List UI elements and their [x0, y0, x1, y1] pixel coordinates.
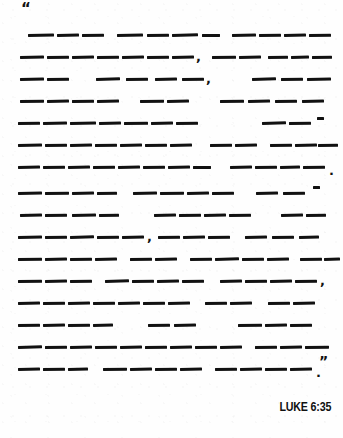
word-blank	[307, 77, 331, 80]
word-blank	[99, 214, 119, 218]
word-blank	[262, 121, 286, 125]
word-blank	[43, 323, 65, 327]
word-blank	[20, 56, 44, 59]
word-blank	[255, 166, 277, 170]
word-blank	[143, 302, 165, 305]
word-blank	[176, 122, 198, 125]
word-blank	[97, 192, 117, 195]
verse-attribution: LUKE 6:35	[279, 399, 331, 414]
word-blank	[205, 302, 227, 305]
word-blank	[99, 122, 121, 126]
word-blank	[302, 99, 324, 103]
word-blank	[284, 33, 306, 37]
hyphen-mark	[317, 117, 324, 120]
word-blank	[45, 192, 69, 196]
verse-line: ,	[0, 50, 343, 62]
verse-line: ,	[0, 72, 343, 84]
word-blank	[208, 236, 230, 239]
word-blank	[97, 236, 119, 239]
word-blank	[148, 324, 170, 328]
word-blank	[103, 368, 127, 371]
word-blank	[45, 236, 67, 239]
word-blank	[18, 301, 40, 304]
word-blank	[270, 144, 292, 147]
word-blank	[147, 34, 169, 38]
word-blank	[95, 144, 117, 147]
word-blank	[170, 144, 192, 148]
word-blank	[305, 346, 329, 350]
word-blank	[18, 345, 42, 349]
word-blank	[82, 34, 104, 37]
word-blank	[68, 368, 88, 372]
word-blank	[187, 192, 209, 196]
word-blank	[295, 280, 317, 283]
word-blank	[45, 258, 67, 262]
word-blank	[172, 33, 198, 36]
verse-line	[0, 28, 343, 40]
word-blank	[118, 166, 140, 169]
word-blank	[256, 192, 278, 195]
word-blank	[267, 258, 289, 261]
word-blank	[309, 34, 331, 37]
word-blank	[122, 56, 144, 60]
word-blank	[193, 166, 211, 169]
word-blank	[140, 100, 164, 103]
word-blank	[96, 77, 120, 80]
word-blank	[275, 100, 297, 103]
word-blank	[151, 122, 173, 125]
word-blank	[265, 368, 287, 371]
word-blank	[270, 280, 292, 283]
word-blank	[167, 99, 189, 103]
word-blank	[281, 213, 303, 217]
word-blank	[70, 258, 92, 261]
verse-line	[0, 208, 343, 220]
verse-line: ,	[0, 274, 343, 286]
word-blank	[160, 192, 184, 195]
word-blank	[147, 56, 169, 59]
word-blank	[268, 56, 288, 59]
word-blank	[45, 346, 67, 349]
word-blank	[155, 78, 177, 82]
word-blank	[303, 166, 325, 169]
verse-line	[0, 138, 343, 150]
word-blank	[95, 346, 117, 350]
word-blank	[145, 346, 167, 349]
word-blank	[265, 324, 287, 327]
word-blank	[18, 236, 42, 239]
word-blank	[122, 236, 144, 239]
word-blank	[57, 34, 79, 38]
word-blank	[290, 368, 312, 372]
word-blank	[93, 302, 115, 305]
word-blank	[182, 280, 204, 283]
verse-line: ,	[0, 230, 343, 242]
word-blank	[43, 368, 65, 371]
word-blank	[145, 144, 167, 147]
word-blank	[45, 280, 67, 283]
word-blank	[133, 192, 157, 196]
word-blank	[28, 34, 54, 37]
verse-line	[0, 340, 343, 352]
scanned-page: “ ,,.,,.” LUKE 6:35	[0, 0, 343, 438]
word-blank	[215, 258, 239, 262]
verse-line	[0, 116, 343, 128]
word-blank	[68, 165, 90, 169]
word-blank	[155, 258, 177, 261]
word-blank	[43, 302, 65, 305]
word-blank	[220, 345, 242, 349]
word-blank	[312, 56, 332, 59]
word-blank	[290, 324, 312, 328]
word-blank	[70, 280, 92, 283]
word-blank	[180, 368, 202, 371]
word-blank	[72, 56, 94, 59]
word-blank	[235, 144, 257, 147]
word-blank	[70, 122, 96, 125]
word-blank	[204, 214, 226, 218]
word-blank	[245, 236, 267, 240]
hyphen-mark	[313, 186, 320, 189]
word-blank	[124, 122, 148, 125]
word-blank	[183, 235, 205, 239]
word-blank	[18, 144, 42, 148]
word-blank	[70, 236, 94, 240]
word-blank	[168, 165, 190, 168]
word-blank	[291, 55, 309, 58]
